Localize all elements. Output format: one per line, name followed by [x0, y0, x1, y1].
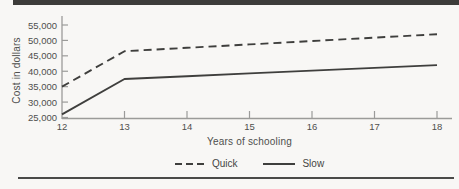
- y-tick-label: 25,000: [28, 112, 57, 123]
- y-tick-label: 35,000: [28, 81, 57, 92]
- y-tick-label: 30,000: [28, 97, 57, 108]
- legend: Quick Slow: [62, 158, 437, 169]
- legend-item-slow: Slow: [263, 158, 324, 169]
- x-tick-label: 12: [57, 121, 68, 132]
- solid-line-swatch: [263, 163, 295, 165]
- legend-item-quick: Quick: [175, 158, 238, 169]
- y-tick-label: 50,000: [28, 35, 57, 46]
- y-tick-label: 40,000: [28, 66, 57, 77]
- legend-label-slow: Slow: [302, 158, 324, 169]
- x-tick-label: 14: [182, 121, 193, 132]
- x-tick-label: 16: [307, 121, 318, 132]
- y-tick-label: 45,000: [28, 50, 57, 61]
- y-axis-title: Cost in dollars: [11, 21, 24, 121]
- bottom-rule: [18, 177, 454, 179]
- line-chart-figure: 25,00030,00035,00040,00045,00050,00055,0…: [0, 0, 459, 189]
- plot-area: 25,00030,00035,00040,00045,00050,00055,0…: [0, 0, 459, 135]
- x-tick-label: 17: [369, 121, 380, 132]
- x-tick-label: 18: [432, 121, 443, 132]
- x-axis-title: Years of schooling: [62, 136, 437, 147]
- series-line-quick: [62, 34, 437, 86]
- series-line-slow: [62, 65, 437, 114]
- x-tick-label: 15: [244, 121, 255, 132]
- legend-label-quick: Quick: [212, 158, 238, 169]
- y-tick-label: 55,000: [28, 20, 57, 31]
- dashed-line-swatch: [175, 163, 205, 165]
- x-tick-label: 13: [119, 121, 130, 132]
